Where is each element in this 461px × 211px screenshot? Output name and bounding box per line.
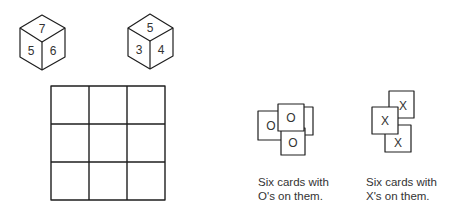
o-cards-caption-line2: O's on them. [258,189,329,203]
die-1: 7 5 6 [20,15,65,70]
o-card-top-label: O [286,111,295,125]
o-cards-stack: O O O [258,104,313,155]
die-2-top-face: 5 [147,21,154,35]
x-card-bottom-label: X [394,136,402,150]
o-card-left-label: O [266,119,275,133]
die-1-top-face: 7 [39,22,46,36]
x-cards-stack: X X X [372,91,414,152]
die-2-right-face: 4 [158,43,165,57]
x-card-front-label: X [381,114,389,128]
o-card-bottom-label: O [288,136,297,150]
die-2: 5 3 4 [128,14,173,69]
x-card-top-label: X [399,99,407,113]
o-cards-caption-line1: Six cards with [258,175,329,189]
die-1-right-face: 6 [50,44,57,58]
tic-tac-toe-board [51,86,165,200]
die-2-left-face: 3 [136,43,143,57]
x-cards-caption-line2: X's on them. [366,189,437,203]
x-cards-caption-line1: Six cards with [366,175,437,189]
x-cards-caption: Six cards with X's on them. [366,175,437,203]
die-1-left-face: 5 [28,44,35,58]
o-cards-caption: Six cards with O's on them. [258,175,329,203]
